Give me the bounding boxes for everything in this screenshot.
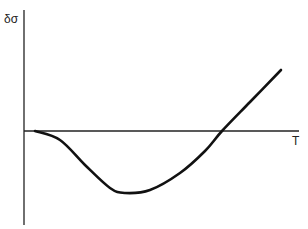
chart-canvas [0, 0, 308, 229]
y-axis-label: δσ [4, 13, 18, 25]
x-axis-label: T [292, 135, 299, 147]
